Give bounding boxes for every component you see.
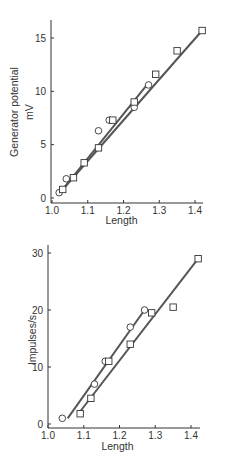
square-marker xyxy=(70,175,76,181)
y-tick-label: 10 xyxy=(35,86,47,97)
square-marker xyxy=(95,145,101,151)
square-marker xyxy=(195,256,201,262)
chart-canvas: 1.01.11.21.31.4051015LengthGenerator pot… xyxy=(0,0,229,470)
square-marker xyxy=(131,99,137,105)
square-marker xyxy=(148,310,154,316)
square-marker xyxy=(77,411,83,417)
x-tick-label: 1.1 xyxy=(77,430,91,441)
y-tick-label: 0 xyxy=(37,419,43,430)
circle-marker xyxy=(59,415,66,422)
y-tick-label: 15 xyxy=(35,33,47,44)
square-marker xyxy=(174,48,180,54)
y-tick-label: 0 xyxy=(40,193,46,204)
y-axis-label: Generator potential xyxy=(8,67,20,157)
square-marker xyxy=(127,341,133,347)
square-marker xyxy=(81,160,87,166)
x-tick-label: 1.1 xyxy=(81,205,95,216)
impulses-chart: 1.01.11.21.31.40102030LengthImpulses/s xyxy=(26,245,201,452)
y-tick-label: 5 xyxy=(40,139,46,150)
y-tick-label: 20 xyxy=(32,305,44,316)
x-axis-label: Length xyxy=(101,440,133,452)
square-marker xyxy=(170,304,176,310)
y-axis-label: mV xyxy=(23,104,35,120)
circle-marker xyxy=(63,176,70,183)
x-tick-label: 1.3 xyxy=(152,205,166,216)
circle-marker xyxy=(127,324,134,331)
square-marker xyxy=(88,395,94,401)
x-axis-label: Length xyxy=(105,214,137,226)
x-tick-label: 1.0 xyxy=(41,430,55,441)
x-tick-label: 1.4 xyxy=(184,430,198,441)
x-tick-label: 1.4 xyxy=(188,205,202,216)
axes xyxy=(48,245,200,428)
circle-marker xyxy=(95,128,102,135)
fit-line-squares xyxy=(78,259,198,414)
generator-potential-chart: 1.01.11.21.31.4051015LengthGenerator pot… xyxy=(8,20,205,226)
circle-marker xyxy=(145,82,152,89)
y-tick-label: 30 xyxy=(32,248,44,259)
square-marker xyxy=(60,186,66,192)
square-marker xyxy=(152,71,158,77)
x-tick-label: 1.0 xyxy=(45,205,59,216)
square-marker xyxy=(110,117,116,123)
square-marker xyxy=(199,27,205,33)
circle-marker xyxy=(91,381,98,388)
square-marker xyxy=(106,358,112,364)
circle-marker xyxy=(141,307,148,314)
y-axis-label: Impulses/s xyxy=(26,315,38,365)
x-tick-label: 1.3 xyxy=(148,430,162,441)
